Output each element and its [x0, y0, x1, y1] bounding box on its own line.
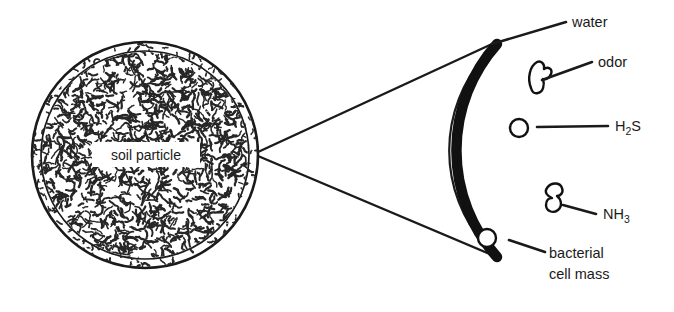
soil-particle-label: soil particle — [111, 147, 181, 163]
bubble-lower — [478, 229, 496, 247]
label-h2s-element: H — [615, 118, 625, 134]
label-water: water — [571, 14, 608, 30]
soil-particle-diagram: soil particle — [0, 0, 674, 312]
label-odor: odor — [598, 54, 627, 70]
label-nh3-element: NH — [603, 206, 624, 222]
label-bacterial-cell-mass-line1: bacterial — [549, 245, 604, 261]
label-nh3-subscript: 3 — [624, 213, 630, 225]
label-bacterial-cell-mass-line2: cell mass — [549, 266, 609, 282]
bubble-upper — [510, 119, 528, 137]
label-h2s-tail: S — [631, 118, 641, 134]
diagram-figure: soil particle — [0, 0, 674, 312]
leader-line-h2s — [537, 126, 608, 127]
